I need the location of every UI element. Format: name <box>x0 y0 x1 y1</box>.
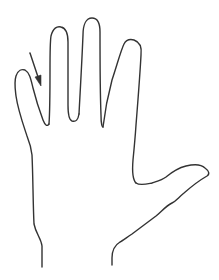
thumb-outline <box>112 165 209 265</box>
middle-finger-outline <box>79 18 103 127</box>
index-finger-outline <box>103 40 141 183</box>
hand-outline-drawing <box>0 0 219 280</box>
hand-outline-left <box>15 70 49 267</box>
ring-finger-outline <box>49 27 79 124</box>
hand-diagram <box>0 0 219 280</box>
